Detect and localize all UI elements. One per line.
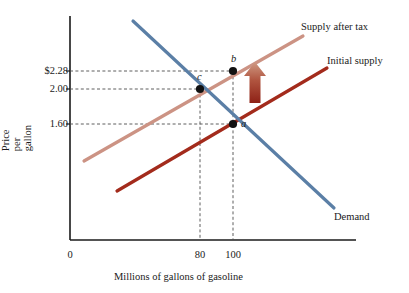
point-label-b: b <box>231 54 236 65</box>
point-b-marker <box>229 67 237 75</box>
point-c-marker <box>196 85 204 93</box>
x-axis-tick-0: 0 <box>60 250 80 261</box>
point-label-c: c <box>197 72 202 83</box>
x-axis-tick-80: 80 <box>190 250 210 261</box>
point-a-marker <box>229 120 237 128</box>
axis-lines <box>70 16 356 240</box>
series-label-supply-after-tax: Supply after tax <box>301 22 368 33</box>
point-label-a: a <box>241 119 246 130</box>
x-axis-tick-100: 100 <box>220 250 246 261</box>
series-label-initial-supply: Initial supply <box>327 56 383 67</box>
series-label-demand: Demand <box>334 212 370 223</box>
y-axis-tick-2-28: $2.28 <box>24 66 68 77</box>
supply-demand-chart: $2.28 2.00 1.60 0 80 100 Millions of gal… <box>0 0 409 293</box>
supply-after-tax-line <box>84 36 303 161</box>
y-axis-title-wrapper: Price per gallon <box>8 78 24 198</box>
x-axis-title: Millions of gallons of gasoline <box>114 272 243 283</box>
y-axis-tick-2-00: 2.00 <box>24 84 68 95</box>
y-axis-title: Price per gallon <box>0 125 33 151</box>
